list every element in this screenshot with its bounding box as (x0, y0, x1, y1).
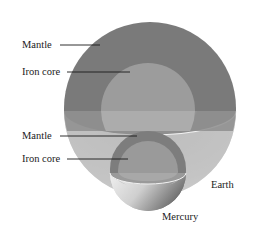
mercury-mantle-label: Mantle (22, 130, 52, 141)
mercury-label: Mercury (162, 211, 199, 222)
earth-mercury-interior-diagram: Mantle Iron core Mantle Iron core Earth … (0, 0, 268, 239)
earth-mantle-label: Mantle (22, 39, 52, 50)
earth-label: Earth (211, 179, 234, 190)
mercury-core-label: Iron core (22, 153, 61, 164)
earth-core-label: Iron core (22, 66, 61, 77)
